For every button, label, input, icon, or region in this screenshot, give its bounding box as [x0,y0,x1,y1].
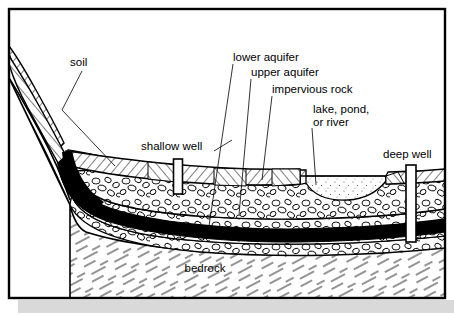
label-impervious-rock: impervious rock [272,83,353,95]
label-lower-aquifer: lower aquifer [233,51,299,63]
shallow-well-casing[interactable] [174,159,183,194]
label-upper-aquifer: upper aquifer [251,66,319,78]
label-shallow-well: shallow well [141,140,202,152]
label-soil: soil [70,56,87,68]
deep-well-casing[interactable] [406,165,416,242]
frame-shadow [18,300,454,313]
label-lake-line2: or river [313,116,349,128]
label-deep-well: deep well [383,148,432,160]
label-bedrock: bedrock [185,262,226,274]
figure-canvas: bedrock soil shallow well lower aquifer … [0,0,454,315]
cross-section-diagram: bedrock soil shallow well lower aquifer … [0,0,454,315]
label-lake-line1: lake, pond, [313,103,369,115]
